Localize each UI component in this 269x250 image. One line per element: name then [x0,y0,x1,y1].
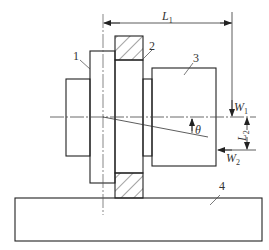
part-2-bottom-hatched [115,173,143,198]
leader-3 [184,63,193,75]
l1-label: L1 [161,9,173,25]
l2-label: L2 [235,130,251,142]
part-2-body [115,60,143,173]
connector [143,79,152,156]
part-label-2: 2 [149,39,155,53]
leader-4 [210,195,220,205]
part-label-1: 1 [73,49,79,63]
part-2-top-hatched [115,36,143,60]
base-part-4 [15,198,262,241]
mechanical-diagram: θ L1 W1 L2 W2 1 2 3 4 [0,0,269,250]
w1-label: W1 [234,100,248,116]
part-label-4: 4 [219,179,225,193]
part-1-hub [66,79,90,156]
leader-1 [80,60,90,69]
part-label-3: 3 [193,51,199,65]
theta-label: θ [195,123,201,137]
w2-label: W2 [226,151,240,167]
